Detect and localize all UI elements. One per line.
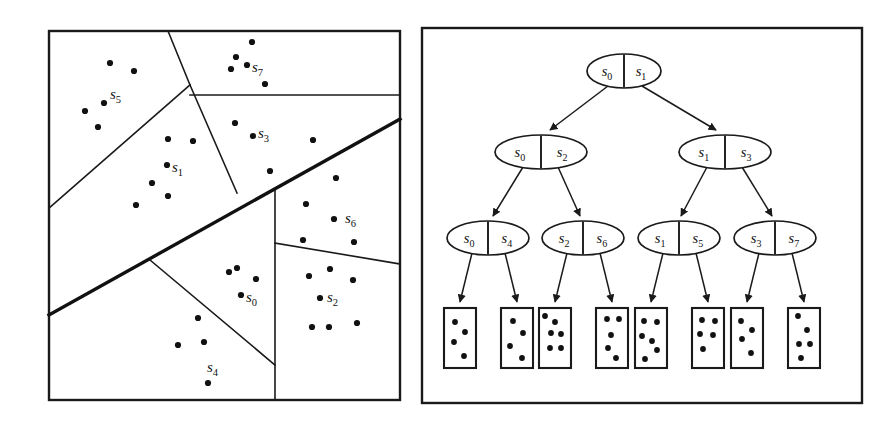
node-label-subscript: 5 — [698, 238, 703, 249]
partition-point — [234, 265, 240, 271]
partition-point — [232, 120, 238, 126]
leaf-point — [558, 331, 564, 337]
leaf-point — [649, 338, 655, 344]
partition-point — [82, 108, 88, 114]
leaf-group-leaf-3 — [539, 308, 571, 368]
tree-edges — [460, 86, 804, 302]
node-label-subscript: 1 — [660, 238, 665, 249]
partition-point — [101, 100, 107, 106]
tree-node-n-s2s6[interactable]: s2s6 — [542, 221, 624, 255]
partition-point — [107, 60, 113, 66]
leaf-group-leaf-4 — [596, 308, 628, 368]
edge-s1s5-to-leaf-6 — [696, 253, 708, 302]
leaf-point — [542, 313, 548, 319]
tree-node-n-s1s5[interactable]: s1s5 — [638, 221, 720, 255]
partition-point — [327, 266, 333, 272]
partition-point — [326, 324, 332, 330]
partition-point — [195, 315, 201, 321]
leaf-point — [642, 356, 648, 362]
node-label-subscript: 0 — [607, 71, 612, 82]
leaf-point — [605, 345, 611, 351]
node-label-subscript: 4 — [507, 238, 512, 249]
partition-point — [190, 138, 196, 144]
leaf-group-leaf-1 — [444, 308, 476, 368]
partition-point — [164, 162, 170, 168]
partition-point — [351, 239, 357, 245]
partition-point — [133, 202, 139, 208]
partition-point — [249, 39, 255, 45]
edge-s2s6-to-leaf-3 — [555, 253, 567, 302]
leaf-point — [552, 319, 558, 325]
leaf-point — [699, 317, 705, 323]
partition-point — [165, 193, 171, 199]
partition-point — [205, 380, 211, 386]
partition-point — [226, 269, 232, 275]
region-label-subscript: 2 — [333, 297, 338, 308]
tree-nodes: s0s1s0s2s1s3s0s4s2s6s1s5s3s7 — [447, 54, 816, 255]
region-label-s7: s7 — [252, 59, 263, 78]
node-label-subscript: 0 — [469, 238, 474, 249]
leaf-point — [748, 350, 754, 356]
node-label-subscript: 0 — [520, 152, 525, 163]
leaf-point — [798, 355, 804, 361]
edge-s0s4-to-leaf-1 — [460, 253, 472, 302]
tree-node-n-s3s7[interactable]: s3s7 — [734, 221, 816, 255]
diagram-canvas: s5s7s3s1s6s0s2s4 s0s1s0s2s1s3s0s4s2s6s1s… — [0, 0, 879, 425]
leaf-box-leaf-8 — [788, 308, 820, 368]
edge-s0s2-to-s0s4 — [493, 167, 523, 216]
tree-root-level: s0s1 — [587, 54, 661, 88]
region-label-subscript: 6 — [351, 218, 356, 229]
leaf-point — [654, 319, 660, 325]
leaf-box-leaf-1 — [444, 308, 476, 368]
leaf-point — [519, 355, 525, 361]
leaf-point — [710, 332, 716, 338]
partition-point — [306, 273, 312, 279]
edge-root-to-s0s2 — [550, 86, 608, 130]
edge-s1s3-to-s1s5 — [681, 167, 707, 216]
tree-node-n-s0s4[interactable]: s0s4 — [447, 221, 529, 255]
tree-node-root[interactable]: s0s1 — [587, 54, 661, 88]
partition-point — [201, 339, 207, 345]
tree-node-n-s1s3[interactable]: s1s3 — [679, 135, 771, 169]
partition-point — [267, 168, 273, 174]
edge-s1s5-to-leaf-5 — [651, 253, 663, 302]
tree-panel: s0s1s0s2s1s3s0s4s2s6s1s5s3s7 — [422, 28, 862, 403]
leaf-point — [697, 331, 703, 337]
leaf-point — [616, 316, 622, 322]
leaf-point — [520, 330, 526, 336]
region-label-s6: s6 — [345, 210, 356, 229]
partition-point — [95, 124, 101, 130]
leaf-group-leaf-6 — [692, 308, 724, 368]
leaf-point — [461, 353, 467, 359]
leaf-group-leaf-8 — [788, 308, 820, 368]
leaf-point — [795, 313, 801, 319]
tree-level-2: s0s2s1s3 — [495, 135, 771, 169]
edge-s2s6-to-leaf-4 — [600, 253, 612, 302]
edge-s1s3-to-s3s7 — [742, 167, 772, 216]
partition-point — [233, 54, 239, 60]
node-label-subscript: 3 — [756, 238, 761, 249]
edge-s0s2-to-s2s6 — [558, 167, 580, 216]
leaf-point — [548, 330, 554, 336]
region-label-s3: s3 — [258, 125, 269, 144]
leaf-box-leaf-6 — [692, 308, 724, 368]
node-label-subscript: 1 — [704, 152, 709, 163]
leaf-point — [451, 339, 457, 345]
leaf-point — [739, 336, 745, 342]
region-label-subscript: 0 — [252, 297, 257, 308]
node-label-subscript: 1 — [641, 71, 646, 82]
leaf-point — [749, 327, 755, 333]
edge-s3s7-to-leaf-8 — [792, 253, 804, 302]
leaf-point — [639, 333, 645, 339]
leaf-point — [507, 343, 513, 349]
partition-point — [131, 68, 137, 74]
region-label-subscript: 3 — [264, 133, 269, 144]
partition-data-points — [82, 39, 360, 386]
leaf-point — [462, 329, 468, 335]
node-label-subscript: 2 — [564, 238, 569, 249]
node-label-subscript: 2 — [562, 152, 567, 163]
partition-point — [250, 133, 256, 139]
leaf-point — [804, 327, 810, 333]
region-label-s0: s0 — [246, 289, 257, 308]
tree-node-n-s0s2[interactable]: s0s2 — [495, 135, 587, 169]
